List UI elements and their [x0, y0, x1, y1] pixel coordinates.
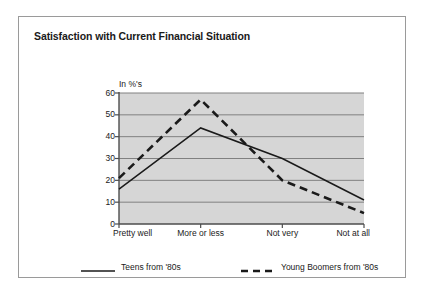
- y-axis-tick-label: 10: [89, 198, 115, 207]
- chart-legend: Teens from '80sYoung Boomers from '80s: [81, 260, 381, 276]
- y-axis-tick-labels: 0102030405060: [85, 93, 115, 224]
- y-axis-tick-label: 40: [89, 132, 115, 141]
- plot-area: [119, 93, 364, 224]
- page-title: Satisfaction with Current Financial Situ…: [34, 30, 250, 42]
- y-axis-tick-label: 60: [89, 89, 115, 98]
- x-axis-tick-label: Not very: [267, 228, 299, 238]
- y-axis-tick-label: 30: [89, 154, 115, 163]
- chart-card: Satisfaction with Current Financial Situ…: [18, 16, 406, 278]
- x-axis-tick-label: More or less: [177, 228, 224, 238]
- y-axis-tick-label: 0: [89, 220, 115, 229]
- y-axis-unit-label: In %'s: [119, 79, 142, 89]
- chart-page: Satisfaction with Current Financial Situ…: [0, 0, 426, 297]
- dashed-line-icon: [241, 262, 275, 272]
- y-axis-tick-label: 50: [89, 110, 115, 119]
- x-axis-tick-label: Not at all: [336, 228, 370, 238]
- y-axis-tick-label: 20: [89, 176, 115, 185]
- x-axis-tick-labels: Pretty wellMore or lessNot veryNot at al…: [119, 228, 364, 242]
- legend-item[interactable]: Young Boomers from '80s: [241, 260, 378, 274]
- chart-svg: [119, 93, 364, 224]
- legend-item-label: Teens from '80s: [121, 262, 181, 272]
- legend-item-label: Young Boomers from '80s: [281, 262, 378, 272]
- solid-line-icon: [81, 262, 115, 272]
- series-line: [119, 100, 364, 214]
- x-axis-tick-label: Pretty well: [113, 228, 152, 238]
- legend-item[interactable]: Teens from '80s: [81, 260, 181, 274]
